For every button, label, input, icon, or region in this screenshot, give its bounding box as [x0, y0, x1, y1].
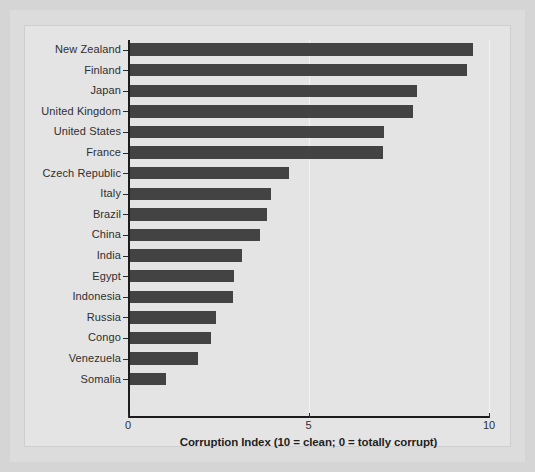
- category-label-united-kingdom: United Kingdom: [41, 105, 121, 117]
- bar-row[interactable]: Brazil: [0, 205, 535, 226]
- y-axis-tick: [123, 111, 128, 112]
- category-label-congo: Congo: [88, 331, 121, 343]
- bar-row[interactable]: Congo: [0, 328, 535, 349]
- category-label-venezuela: Venezuela: [69, 352, 121, 364]
- bar-france[interactable]: [130, 146, 383, 158]
- y-axis-tick: [123, 359, 128, 360]
- x-tick-label-0: 0: [125, 419, 131, 431]
- bar-row[interactable]: Russia: [0, 308, 535, 329]
- bar-row[interactable]: India: [0, 246, 535, 267]
- bar-row[interactable]: Somalia: [0, 370, 535, 391]
- bar-indonesia[interactable]: [130, 291, 233, 303]
- bar-series: New ZealandFinlandJapanUnited KingdomUni…: [0, 0, 535, 472]
- y-axis-tick: [123, 91, 128, 92]
- bar-brazil[interactable]: [130, 208, 267, 220]
- category-label-japan: Japan: [91, 84, 121, 96]
- category-label-brazil: Brazil: [93, 208, 121, 220]
- y-axis-tick: [123, 235, 128, 236]
- bar-united-states[interactable]: [130, 126, 384, 138]
- x-tick-label-5: 5: [305, 419, 311, 431]
- y-axis-tick: [123, 214, 128, 215]
- bar-row[interactable]: United States: [0, 122, 535, 143]
- y-axis-tick: [123, 276, 128, 277]
- y-axis-tick: [123, 173, 128, 174]
- figure-canvas: New ZealandFinlandJapanUnited KingdomUni…: [0, 0, 535, 472]
- y-axis-tick: [123, 256, 128, 257]
- x-tick-mark-5: [309, 413, 310, 418]
- bar-czech-republic[interactable]: [130, 167, 289, 179]
- category-label-new-zealand: New Zealand: [55, 43, 121, 55]
- category-label-indonesia: Indonesia: [72, 290, 121, 302]
- category-label-egypt: Egypt: [92, 270, 121, 282]
- bar-row[interactable]: Italy: [0, 184, 535, 205]
- y-axis-tick: [123, 50, 128, 51]
- bar-japan[interactable]: [130, 85, 417, 97]
- x-tick-mark-10: [489, 413, 490, 418]
- bar-row[interactable]: United Kingdom: [0, 102, 535, 123]
- bar-russia[interactable]: [130, 311, 216, 323]
- category-label-france: France: [86, 146, 121, 158]
- category-label-somalia: Somalia: [81, 373, 121, 385]
- bar-row[interactable]: Finland: [0, 61, 535, 82]
- bar-congo[interactable]: [130, 332, 211, 344]
- category-label-united-states: United States: [54, 125, 121, 137]
- category-label-china: China: [92, 228, 121, 240]
- y-axis-tick: [123, 317, 128, 318]
- bar-china[interactable]: [130, 229, 260, 241]
- bar-row[interactable]: Japan: [0, 81, 535, 102]
- bar-finland[interactable]: [130, 64, 467, 76]
- bar-egypt[interactable]: [130, 270, 234, 282]
- y-axis-tick: [123, 132, 128, 133]
- bar-row[interactable]: Czech Republic: [0, 164, 535, 185]
- y-axis-tick: [123, 153, 128, 154]
- x-axis-title: Corruption Index (10 = clean; 0 = totall…: [128, 436, 489, 448]
- bar-row[interactable]: Egypt: [0, 267, 535, 288]
- category-label-czech-republic: Czech Republic: [43, 167, 121, 179]
- y-axis-tick: [123, 70, 128, 71]
- y-axis-tick: [123, 338, 128, 339]
- category-label-russia: Russia: [87, 311, 121, 323]
- y-axis-tick: [123, 194, 128, 195]
- y-axis-tick: [123, 297, 128, 298]
- bar-row[interactable]: Indonesia: [0, 287, 535, 308]
- bar-india[interactable]: [130, 249, 242, 261]
- x-tick-mark-0: [128, 413, 129, 418]
- bar-somalia[interactable]: [130, 373, 166, 385]
- bar-row[interactable]: France: [0, 143, 535, 164]
- bar-new-zealand[interactable]: [130, 43, 473, 55]
- category-label-italy: Italy: [100, 187, 121, 199]
- bar-row[interactable]: Venezuela: [0, 349, 535, 370]
- bar-united-kingdom[interactable]: [130, 105, 413, 117]
- bar-row[interactable]: New Zealand: [0, 40, 535, 61]
- category-label-finland: Finland: [84, 64, 121, 76]
- bar-venezuela[interactable]: [130, 352, 198, 364]
- y-axis-tick: [123, 379, 128, 380]
- category-label-india: India: [97, 249, 121, 261]
- bar-italy[interactable]: [130, 188, 271, 200]
- x-tick-label-10: 10: [483, 419, 495, 431]
- bar-row[interactable]: China: [0, 225, 535, 246]
